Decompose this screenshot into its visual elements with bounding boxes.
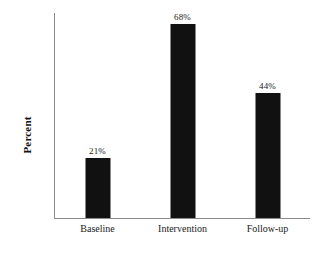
bar-value-label: 68% [174,12,191,22]
bar-group-intervention: 68% [140,13,225,218]
bar-intervention [170,24,195,218]
category-axis: Baseline Intervention Follow-up [55,223,310,243]
bar-value-label: 21% [89,146,106,156]
bar-group-baseline: 21% [55,13,140,218]
category-label-baseline: Baseline [55,223,140,234]
bar-follow-up [255,93,280,218]
plot-area: 21% 68% 44% [55,13,310,218]
bar-value-label: 44% [259,81,276,91]
y-axis-title: Percent [21,116,33,153]
x-axis-line [54,218,310,219]
bar-group-follow-up: 44% [225,13,310,218]
category-label-follow-up: Follow-up [225,223,310,234]
bar-baseline [85,158,110,218]
bar-chart: Percent 21% 68% 44% Baseline Interventio… [0,0,324,253]
category-label-intervention: Intervention [140,223,225,234]
